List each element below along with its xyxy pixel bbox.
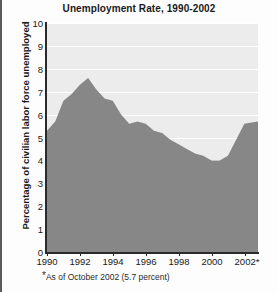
y-tick-4: 4 bbox=[3, 156, 43, 166]
y-tick-5: 5 bbox=[3, 134, 43, 144]
x-tick-label-1990: 1990 bbox=[30, 256, 64, 267]
x-tick-label-2000: 2000 bbox=[195, 256, 229, 267]
plot-area bbox=[47, 23, 258, 252]
y-tick-labels: 10 9 8 7 6 5 4 3 2 1 0 bbox=[0, 0, 43, 292]
unemployment-area-series bbox=[47, 23, 258, 252]
x-tick-label-1998: 1998 bbox=[162, 256, 196, 267]
x-tick-label-2002: 2002* bbox=[228, 256, 266, 267]
y-tick-1: 1 bbox=[3, 225, 43, 235]
y-tick-6: 6 bbox=[3, 111, 43, 121]
y-tick-2: 2 bbox=[3, 202, 43, 212]
chart-figure: Unemployment Rate, 1990-2002 Percentage … bbox=[0, 0, 278, 292]
x-tick-label-1996: 1996 bbox=[129, 256, 163, 267]
y-axis-line bbox=[45, 22, 47, 253]
x-tick-label-1994: 1994 bbox=[96, 256, 130, 267]
x-tick-label-1992: 1992 bbox=[63, 256, 97, 267]
y-tick-3: 3 bbox=[3, 179, 43, 189]
y-tick-9: 9 bbox=[3, 42, 43, 52]
footnote-text: As of October 2002 (5.7 percent) bbox=[46, 272, 170, 282]
y-tick-7: 7 bbox=[3, 88, 43, 98]
x-axis-line bbox=[45, 252, 259, 254]
chart-footnote: *As of October 2002 (5.7 percent) bbox=[42, 272, 170, 282]
y-tick-8: 8 bbox=[3, 65, 43, 75]
y-tick-10: 10 bbox=[3, 19, 43, 29]
